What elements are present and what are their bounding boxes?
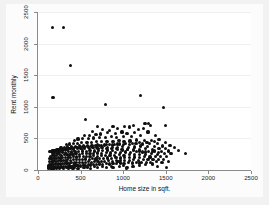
scatter-point <box>127 161 130 164</box>
scatter-point <box>105 162 108 165</box>
x-axis-tick-label: 0 <box>36 175 39 181</box>
scatter-point <box>177 149 180 152</box>
y-axis-tick <box>34 107 37 108</box>
scatter-point <box>90 144 93 147</box>
y-axis-tick-label: 1000 <box>23 98 29 116</box>
scatter-point <box>138 161 141 164</box>
scatter-point <box>142 127 145 130</box>
scatter-point <box>51 96 54 99</box>
y-axis-tick-label: 2500 <box>23 3 29 21</box>
scatter-point <box>120 148 123 151</box>
gridline-horizontal <box>38 12 251 13</box>
scatter-point <box>146 130 149 133</box>
scatter-point <box>145 141 148 144</box>
x-axis-tick-label: 2500 <box>244 175 258 181</box>
y-axis-tick <box>34 44 37 45</box>
scatter-point <box>105 166 108 169</box>
y-axis-tick-label: 2000 <box>23 35 29 53</box>
scatter-point <box>167 160 170 163</box>
scatter-point <box>139 134 142 137</box>
scatter-point <box>124 142 127 145</box>
scatter-point <box>164 124 167 127</box>
y-axis-tick <box>34 75 37 76</box>
scatter-point <box>106 131 109 134</box>
scatter-point <box>157 138 160 141</box>
scatter-point <box>96 166 99 169</box>
scatter-point <box>104 103 107 106</box>
scatter-point <box>96 125 99 128</box>
scatter-point <box>128 125 131 128</box>
y-axis-tick <box>34 12 37 13</box>
scatter-point <box>123 125 126 128</box>
scatter-point <box>61 166 64 169</box>
scatter-point <box>48 150 51 153</box>
x-axis-tick <box>38 171 39 174</box>
scatter-point <box>65 166 68 169</box>
x-axis-tick <box>166 171 167 174</box>
x-axis-tick <box>208 171 209 174</box>
scatter-point <box>87 137 90 140</box>
scatter-point <box>164 141 167 144</box>
scatter-point <box>131 142 134 145</box>
scatter-point <box>91 130 94 133</box>
scatter-point <box>105 147 108 150</box>
x-axis-tick <box>81 171 82 174</box>
scatter-point <box>154 134 157 137</box>
scatter-point <box>122 135 125 138</box>
scatter-point <box>184 152 187 155</box>
y-axis-tick-label: 1500 <box>23 66 29 84</box>
gridline-horizontal <box>38 44 251 45</box>
x-axis-tick <box>251 171 252 174</box>
scatter-point <box>132 124 135 127</box>
scatter-point <box>101 165 104 168</box>
scatter-point <box>101 128 104 131</box>
scatter-point <box>81 137 84 140</box>
y-axis-title: Rent monthly <box>10 75 17 113</box>
scatter-point <box>51 26 54 29</box>
scatter-point <box>160 161 163 164</box>
x-axis-tick <box>123 171 124 174</box>
scatter-point <box>169 152 172 155</box>
scatter-point <box>110 165 113 168</box>
gridline-horizontal <box>38 75 251 76</box>
scatter-point <box>149 124 152 127</box>
scatter-point <box>132 149 135 152</box>
scatter-point <box>131 165 134 168</box>
scatter-point <box>156 142 159 145</box>
x-axis-tick-label: 1000 <box>116 175 130 181</box>
scatter-point <box>144 150 147 153</box>
scatter-point <box>144 163 147 166</box>
scatter-point <box>137 128 140 131</box>
scatter-point <box>156 165 159 168</box>
scatter-point <box>151 162 154 165</box>
scatter-point <box>157 151 160 154</box>
scatter-point <box>153 145 156 148</box>
scatter-point <box>151 150 154 153</box>
scatter-point <box>139 94 142 97</box>
scatter-point <box>165 155 168 158</box>
y-axis-tick <box>34 138 37 139</box>
scatter-point <box>155 160 158 163</box>
scatter-point <box>93 165 96 168</box>
y-axis-tick-label: 0 <box>23 161 29 179</box>
scatter-point <box>94 133 97 136</box>
plot-area <box>38 12 251 170</box>
scatter-point <box>86 165 89 168</box>
scatter-point <box>76 146 79 149</box>
scatter-point <box>165 166 168 169</box>
x-axis-line <box>37 170 251 171</box>
scatter-point <box>68 165 71 168</box>
scatter-point <box>113 143 116 146</box>
scatter-point <box>110 147 113 150</box>
scatter-point <box>143 122 146 125</box>
x-axis-tick-label: 500 <box>75 175 85 181</box>
gridline-horizontal <box>38 107 251 108</box>
scatter-point <box>84 118 87 121</box>
scatter-point <box>122 164 125 167</box>
scatter-point <box>162 106 165 109</box>
x-axis-title: Home size in sqft. <box>38 185 251 192</box>
scatter-point <box>125 132 128 135</box>
scatter-point <box>130 135 133 138</box>
scatter-point <box>47 165 50 168</box>
y-axis-tick <box>34 170 37 171</box>
